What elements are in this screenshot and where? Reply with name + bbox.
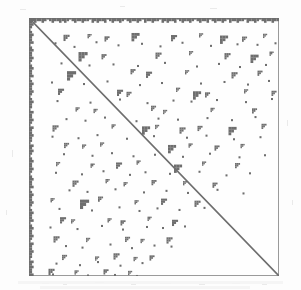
dense-top-rows-band bbox=[29, 18, 279, 23]
sparsity-plot bbox=[29, 18, 279, 276]
sparse-point-markers bbox=[50, 41, 277, 276]
scan-smudge-upper bbox=[18, 281, 283, 284]
dense-left-columns-band bbox=[29, 18, 34, 276]
sparsity-pattern-canvas bbox=[29, 18, 279, 276]
scan-smudge-lower bbox=[40, 286, 250, 289]
scanned-page: Sparsity pattern (spy plot) of a square … bbox=[0, 0, 301, 290]
